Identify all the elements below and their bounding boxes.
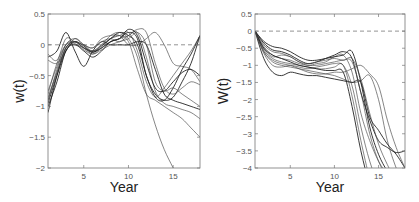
y-tick-label: −1 (36, 102, 46, 111)
y-tick-label: −2.5 (236, 113, 252, 122)
x-tick-label: 5 (82, 172, 87, 181)
x-tick-label: 15 (169, 172, 178, 181)
left-chart-panel: 0.50−0.5−1−1.5−2 51015 Year w(t) (11, 10, 200, 202)
y-tick-label: 0 (248, 27, 253, 36)
y-tick-label: −3 (243, 130, 253, 139)
right-y-axis-label: W(t) (215, 78, 231, 104)
x-tick-label: 15 (374, 172, 383, 181)
y-tick-label: −2 (36, 164, 46, 173)
y-tick-label: −1 (243, 61, 253, 70)
x-tick-label: 5 (288, 172, 293, 181)
y-tick-label: −4 (243, 164, 253, 173)
y-tick-label: −1.5 (29, 133, 45, 142)
y-tick-label: −0.5 (236, 44, 252, 53)
y-tick-label: −1.5 (236, 78, 252, 87)
y-tick-label: −2 (243, 96, 253, 105)
y-tick-label: −0.5 (29, 72, 45, 81)
y-tick-label: 0.5 (34, 10, 46, 19)
y-tick-label: 0.5 (241, 10, 253, 19)
right-x-axis-label: Year (316, 179, 345, 195)
left-y-axis-label: w(t) (11, 79, 27, 103)
left-x-axis-label: Year (110, 179, 139, 195)
right-chart-panel: 0.50−0.5−1−1.5−2−2.5−3−3.5−4 51015 Year … (215, 10, 405, 202)
figure: 0.50−0.5−1−1.5−2 51015 Year w(t) 0.50−0.… (0, 0, 419, 202)
y-tick-label: −3.5 (236, 147, 252, 156)
y-tick-label: 0 (41, 41, 46, 50)
